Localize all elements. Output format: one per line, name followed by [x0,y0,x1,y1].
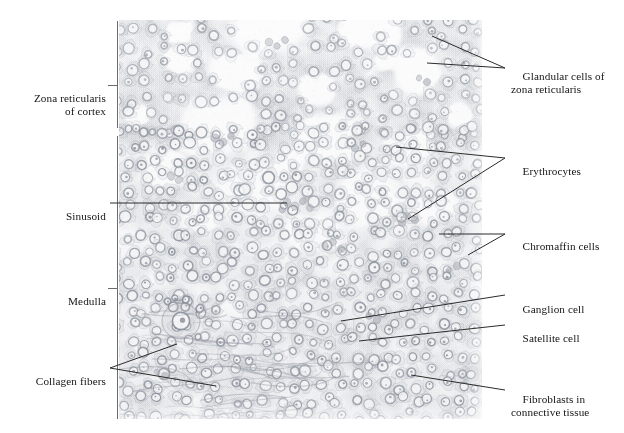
micrograph-canvas [119,20,482,419]
label-text: Medulla [68,295,106,307]
label-text: Zona reticularis of cortex [34,92,106,118]
label-chromaffin-cells: Chromaffin cells [511,226,600,267]
label-sinusoid: Sinusoid [16,196,106,237]
label-text: Glandular cells of zona reticularis [511,70,605,96]
label-text: Chromaffin cells [523,240,600,252]
label-text: Erythrocytes [523,165,581,177]
label-glandular-cells-of-zona-reticularis: Glandular cells of zona reticularis [511,56,605,110]
label-zona-reticularis-of-cortex: Zona reticularis of cortex [16,78,106,132]
label-text: Satellite cell [523,332,580,344]
histology-figure: Zona reticularis of cortex Sinusoid Medu… [0,0,624,433]
label-fibroblasts-in-connective-tissue: Fibroblasts in connective tissue [511,379,589,433]
label-medulla: Medulla [16,281,106,322]
label-collagen-fibers: Collagen fibers [8,361,106,402]
adrenal-gland-micrograph [119,20,482,419]
label-satellite-cell: Satellite cell [511,318,580,359]
label-text: Fibroblasts in connective tissue [511,393,589,419]
label-text: Ganglion cell [523,303,585,315]
label-erythrocytes: Erythrocytes [511,151,581,192]
label-text: Sinusoid [66,210,106,222]
label-text: Collagen fibers [36,375,106,387]
